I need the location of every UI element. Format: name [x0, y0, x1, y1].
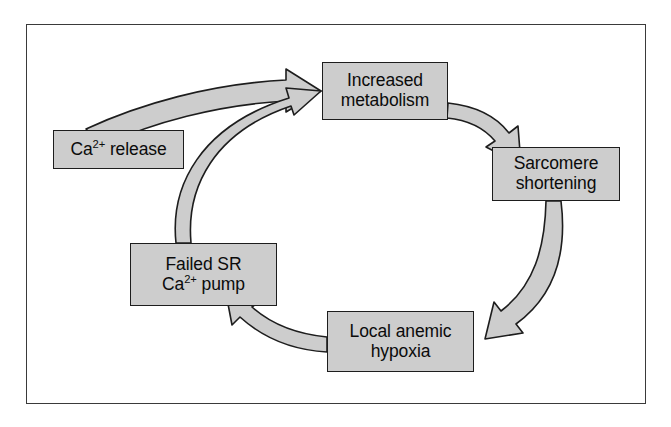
node-ca-release-line-1: Ca2+ release [70, 140, 166, 160]
node-failed-sr-pump-line-1: Failed SR [166, 255, 242, 275]
node-sarcomere-shortening: Sarcomere shortening [492, 147, 620, 201]
node-sarcomere-shortening-line-2: shortening [516, 174, 597, 194]
node-failed-sr-pump-line-2: Ca2+ pump [162, 275, 245, 295]
node-sarcomere-shortening-line-1: Sarcomere [514, 154, 599, 174]
node-failed-sr-pump-superscript: 2+ [184, 273, 197, 285]
node-ca-release-superscript: 2+ [93, 138, 106, 150]
node-local-anemic-hypoxia-line-2: hypoxia [371, 342, 431, 362]
node-ca-release-suffix: release [105, 139, 166, 159]
node-increased-metabolism: Increased metabolism [322, 62, 448, 120]
node-local-anemic-hypoxia-line-1: Local anemic [350, 322, 452, 342]
figure-canvas: Increased metabolism Ca2+ release Sarcom… [0, 0, 671, 427]
node-failed-sr-pump: Failed SR Ca2+ pump [130, 243, 277, 306]
edge-sarcomere-to-local-anemic [485, 201, 563, 339]
node-ca-release-prefix: Ca [70, 139, 92, 159]
node-failed-sr-pump-prefix: Ca [162, 274, 184, 294]
node-increased-metabolism-line-1: Increased [347, 71, 423, 91]
node-failed-sr-pump-suffix: pump [197, 274, 245, 294]
node-increased-metabolism-line-2: metabolism [341, 91, 429, 111]
node-local-anemic-hypoxia: Local anemic hypoxia [327, 311, 474, 372]
node-ca-release: Ca2+ release [53, 130, 184, 169]
